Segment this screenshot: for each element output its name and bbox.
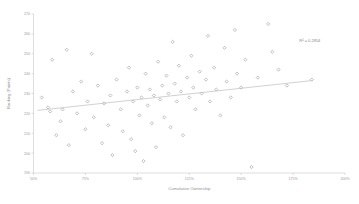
data-point (161, 84, 164, 87)
data-point (61, 108, 64, 111)
y-tick-label: 240 (24, 72, 30, 76)
data-point (90, 52, 93, 55)
data-point (233, 28, 236, 31)
y-tick-label: 210 (24, 132, 30, 136)
data-point (165, 74, 168, 77)
y-tick-label: 230 (24, 92, 30, 96)
data-point (115, 78, 118, 81)
data-point (138, 114, 141, 117)
data-point (100, 142, 103, 145)
data-point (157, 60, 160, 63)
x-axis-tick-labels: 50%75%100%125%150%175%200% (30, 177, 350, 181)
scatter-chart: 270260250240230220210200190 50%75%100%12… (0, 0, 359, 204)
data-point (213, 66, 216, 69)
data-point (173, 82, 176, 85)
y-tick-label: 220 (24, 112, 30, 116)
y-axis-title: Ranking (Points) (6, 77, 11, 109)
data-point (125, 90, 128, 93)
data-point (192, 86, 195, 89)
r-squared-annotation: R² = 0.2854 (299, 38, 321, 43)
data-point (65, 48, 68, 51)
x-tick-label: 100% (133, 177, 143, 181)
x-axis-title: Cumulative Ownership (168, 186, 211, 191)
data-point (40, 96, 43, 99)
y-tick-label: 270 (24, 12, 30, 16)
data-point (194, 108, 197, 111)
data-point (250, 165, 253, 168)
data-point (86, 100, 89, 103)
data-point (223, 46, 226, 49)
data-point (177, 64, 180, 67)
x-tick-label: 200% (340, 177, 350, 181)
data-point (119, 108, 122, 111)
data-point (167, 92, 170, 95)
data-point (204, 78, 207, 81)
data-point (146, 104, 149, 107)
y-axis-tick-labels: 270260250240230220210200190 (24, 12, 30, 175)
data-point (51, 58, 54, 61)
data-point (244, 58, 247, 61)
x-tick-label: 75% (82, 177, 90, 181)
data-point (171, 40, 174, 43)
data-point (144, 72, 147, 75)
data-point (71, 90, 74, 93)
data-point (96, 84, 99, 87)
x-tick-label: 125% (185, 177, 195, 181)
data-point (175, 100, 178, 103)
data-point (134, 150, 137, 153)
y-tick-label: 250 (24, 52, 30, 56)
data-point (186, 76, 189, 79)
data-point (225, 80, 228, 83)
data-point (150, 122, 153, 125)
data-point (152, 94, 155, 97)
x-tick-label: 175% (288, 177, 298, 181)
data-point (159, 98, 162, 101)
y-tick-label: 190 (24, 171, 30, 175)
data-point (109, 94, 112, 97)
data-point (169, 126, 172, 129)
data-point (49, 110, 52, 113)
data-point (277, 68, 280, 71)
y-tick-label: 200 (24, 152, 30, 156)
data-point (198, 70, 201, 73)
data-point (107, 124, 110, 127)
data-point (80, 80, 83, 83)
data-point (67, 144, 70, 147)
data-point (130, 138, 133, 141)
data-point (229, 96, 232, 99)
data-point (142, 159, 145, 162)
data-point (136, 86, 139, 89)
data-point (206, 34, 209, 37)
data-point (219, 114, 222, 117)
data-point (111, 154, 114, 157)
data-point (148, 88, 151, 91)
data-point (163, 116, 166, 119)
x-tick-label: 50% (30, 177, 38, 181)
y-tick-label: 260 (24, 32, 30, 36)
x-tick-label: 150% (237, 177, 247, 181)
chart-canvas: 270260250240230220210200190 50%75%100%12… (0, 0, 359, 204)
data-point (285, 84, 288, 87)
data-point (46, 106, 49, 109)
data-point (92, 116, 95, 119)
data-point (140, 96, 143, 99)
data-point (127, 66, 130, 69)
data-point (271, 50, 274, 53)
data-point (190, 54, 193, 57)
data-point (267, 22, 270, 25)
data-point (84, 128, 87, 131)
data-point (55, 134, 58, 137)
data-point (181, 134, 184, 137)
data-point (235, 72, 238, 75)
data-point (256, 76, 259, 79)
data-point (208, 100, 211, 103)
data-point (59, 120, 62, 123)
data-point (76, 112, 79, 115)
data-point (188, 96, 191, 99)
data-point (121, 130, 124, 133)
data-point (179, 90, 182, 93)
data-point (154, 146, 157, 149)
